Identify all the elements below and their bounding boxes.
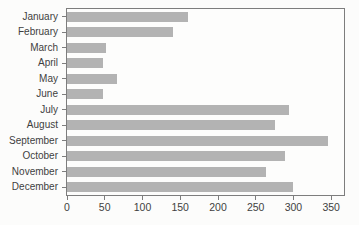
- ytick-april: [62, 63, 66, 64]
- xtick-300: [293, 196, 294, 200]
- bar-january: [67, 12, 188, 22]
- xtick-label-100: 100: [128, 201, 158, 213]
- bar-march: [67, 43, 106, 53]
- bar-chart-figure: JanuaryFebruaryMarchAprilMayJuneJulyAugu…: [0, 0, 359, 225]
- xtick-200: [218, 196, 219, 200]
- xtick-label-250: 250: [241, 201, 271, 213]
- xtick-label-50: 50: [90, 201, 120, 213]
- xtick-label-0: 0: [52, 201, 82, 213]
- ytick-label-february: February: [0, 26, 58, 38]
- ytick-label-august: August: [0, 119, 58, 131]
- ytick-label-june: June: [0, 88, 58, 100]
- ytick-march: [62, 47, 66, 48]
- xtick-label-300: 300: [278, 201, 308, 213]
- ytick-december: [62, 187, 66, 188]
- ytick-label-july: July: [0, 104, 58, 116]
- bar-june: [67, 89, 103, 99]
- ytick-august: [62, 125, 66, 126]
- ytick-label-march: March: [0, 42, 58, 54]
- ytick-label-december: December: [0, 181, 58, 193]
- bar-december: [67, 182, 293, 192]
- ytick-november: [62, 171, 66, 172]
- ytick-label-april: April: [0, 57, 58, 69]
- ytick-september: [62, 140, 66, 141]
- bar-august: [67, 120, 275, 130]
- bar-may: [67, 74, 117, 84]
- bar-september: [67, 136, 328, 146]
- ytick-january: [62, 16, 66, 17]
- ytick-june: [62, 94, 66, 95]
- ytick-label-september: September: [0, 135, 58, 147]
- plot-area: [66, 8, 345, 196]
- xtick-100: [142, 196, 143, 200]
- bar-july: [67, 105, 289, 115]
- bar-february: [67, 27, 173, 37]
- bar-november: [67, 167, 266, 177]
- xtick-label-150: 150: [165, 201, 195, 213]
- xtick-150: [180, 196, 181, 200]
- bar-october: [67, 151, 285, 161]
- bar-april: [67, 58, 103, 68]
- ytick-label-november: November: [0, 166, 58, 178]
- ytick-february: [62, 32, 66, 33]
- xtick-50: [104, 196, 105, 200]
- ytick-october: [62, 156, 66, 157]
- ytick-label-may: May: [0, 73, 58, 85]
- ytick-july: [62, 109, 66, 110]
- xtick-label-350: 350: [316, 201, 346, 213]
- ytick-label-january: January: [0, 11, 58, 23]
- ytick-label-october: October: [0, 150, 58, 162]
- ytick-may: [62, 78, 66, 79]
- xtick-350: [331, 196, 332, 200]
- xtick-0: [67, 196, 68, 200]
- xtick-label-200: 200: [203, 201, 233, 213]
- xtick-250: [255, 196, 256, 200]
